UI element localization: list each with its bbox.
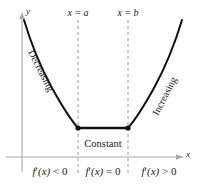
- derivative-sign-figure: y x x = a x = b Decreasing Increasing Co…: [0, 0, 198, 187]
- critical-point-b-dot: [125, 125, 130, 130]
- deriv-relation-negative: < 0: [53, 165, 67, 177]
- curve-decreasing-branch: [24, 20, 78, 128]
- boundary-label-x-eq-b: x = b: [117, 8, 138, 18]
- derivative-label-zero: f′(x) = 0: [86, 166, 121, 177]
- x-axis-arrowhead: [176, 154, 183, 160]
- y-axis-arrowhead: [19, 12, 25, 19]
- derivative-label-negative: f′(x) < 0: [33, 166, 68, 177]
- deriv-relation-positive: > 0: [162, 165, 176, 177]
- y-axis: [19, 12, 25, 172]
- deriv-arg-positive: (x): [147, 165, 159, 177]
- deriv-relation-zero: = 0: [106, 165, 120, 177]
- derivative-label-positive: f′(x) > 0: [142, 166, 177, 177]
- boundary-label-x-eq-a: x = a: [67, 8, 88, 18]
- critical-point-a-dot: [75, 125, 80, 130]
- deriv-arg-zero: (x): [91, 165, 103, 177]
- region-label-constant: Constant: [84, 139, 121, 150]
- y-axis-label: y: [26, 7, 30, 16]
- deriv-arg-negative: (x): [38, 165, 50, 177]
- x-axis-label: x: [186, 150, 190, 159]
- x-axis: [6, 154, 183, 160]
